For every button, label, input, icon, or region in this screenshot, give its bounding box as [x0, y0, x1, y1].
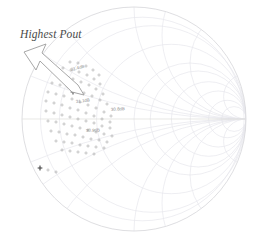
data-point-marker [68, 149, 71, 152]
data-point-marker [52, 111, 55, 114]
data-point-marker [101, 92, 104, 95]
data-point-marker [46, 119, 49, 122]
data-point-marker [97, 73, 100, 76]
data-point-marker [79, 80, 82, 83]
highest-pout-annotation: Highest Pout [20, 29, 82, 41]
data-point-marker [65, 132, 68, 135]
data-point-marker [44, 99, 47, 102]
data-point-marker [60, 113, 63, 116]
data-point-marker [108, 126, 111, 129]
data-point-marker [70, 97, 73, 100]
data-point-marker [62, 122, 65, 125]
data-point-marker [92, 114, 95, 117]
data-point-marker [100, 124, 103, 127]
data-point-marker [70, 141, 73, 144]
data-point-marker [68, 106, 71, 109]
optimum-point-group [38, 90, 76, 171]
data-point-marker [100, 117, 103, 120]
data-point-marker [94, 145, 97, 148]
data-point-marker [87, 83, 90, 86]
data-point-marker [60, 148, 63, 151]
data-point-marker [81, 135, 84, 138]
data-point-marker [94, 87, 97, 90]
smith-chart-figure: Highest Pout 31.4dB31.1dB30.8dB30.9dB [0, 0, 259, 238]
data-point-marker [73, 133, 76, 136]
data-point-marker [105, 102, 108, 105]
data-point-marker [78, 126, 81, 129]
data-point-marker [92, 152, 95, 155]
data-point-marker [84, 111, 87, 114]
data-point-marker [46, 90, 49, 93]
data-point-marker [52, 101, 55, 104]
data-point-marker [76, 108, 79, 111]
data-point-marker [77, 70, 80, 73]
data-point-marker [38, 166, 43, 171]
data-point-marker [46, 168, 49, 171]
data-point-marker [92, 77, 95, 80]
data-point-marker [44, 109, 47, 112]
data-point-marker [109, 114, 112, 117]
data-point-marker [58, 83, 61, 86]
data-point-marker [84, 119, 87, 122]
data-point-marker [76, 117, 79, 120]
data-point-marker [54, 120, 57, 123]
data-point-marker [85, 73, 88, 76]
data-point-marker [68, 60, 71, 63]
data-point-marker [84, 151, 87, 154]
data-point-marker [49, 129, 52, 132]
contour-label: 30.9dB [86, 128, 100, 133]
data-point-marker [54, 139, 57, 142]
data-point-marker [108, 120, 111, 123]
data-point-marker [105, 140, 108, 143]
data-point-marker [98, 82, 101, 85]
data-point-marker [54, 92, 57, 95]
data-point-marker [68, 115, 71, 118]
data-point-marker [70, 124, 73, 127]
data-point-marker [102, 110, 105, 113]
data-point-marker [86, 103, 89, 106]
data-point-marker [86, 144, 89, 147]
data-point-marker [91, 68, 94, 71]
data-point-marker [102, 132, 105, 135]
data-point-marker [76, 150, 79, 153]
data-point-marker [92, 121, 95, 124]
